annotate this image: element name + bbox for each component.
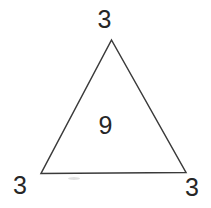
vertex-label-bottom-right: 3	[185, 175, 199, 200]
triangle-diagram: 3 3 3 9	[0, 0, 210, 208]
triangle-shape	[41, 40, 186, 174]
vertex-label-top: 3	[0, 7, 210, 32]
interior-value-label: 9	[1, 113, 211, 138]
paper-smudge-artifact	[68, 177, 80, 180]
vertex-label-bottom-left: 3	[13, 173, 27, 198]
